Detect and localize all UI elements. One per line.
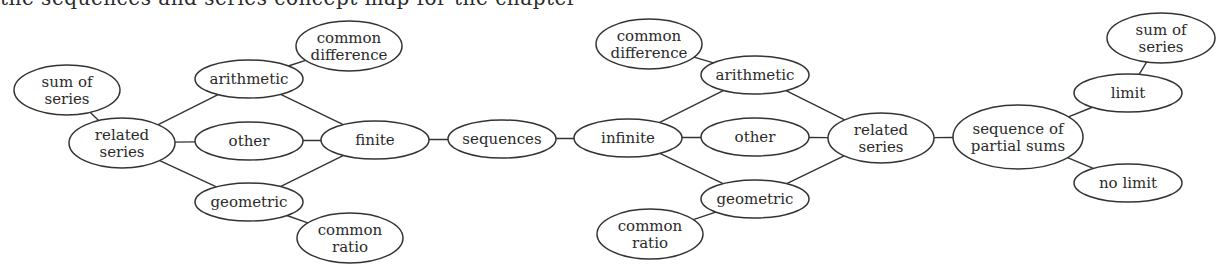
edge-related_l-arith_l xyxy=(158,95,218,125)
node-label: sum of xyxy=(42,73,94,91)
edge-related_l-geom_l xyxy=(160,161,217,187)
node-label: common xyxy=(318,221,383,239)
nodes-layer: sum ofseriesrelatedseriesarithmeticcommo… xyxy=(14,13,1215,263)
node-label: limit xyxy=(1111,84,1146,102)
edge-limit-sum_series_r xyxy=(1139,62,1146,74)
node-related-r: relatedseries xyxy=(828,113,934,163)
node-label: geometric xyxy=(716,190,793,208)
node-related-l: relatedseries xyxy=(69,118,175,168)
node-partial-sums: sequence ofpartial sums xyxy=(953,105,1083,169)
node-arith-l: arithmetic xyxy=(195,60,303,98)
edge-partial_sums-no_limit xyxy=(1068,158,1094,169)
edge-sum_series_l-related_l xyxy=(90,112,98,120)
node-sum-series-r: sum ofseries xyxy=(1107,13,1215,63)
node-label: arithmetic xyxy=(210,70,289,88)
node-label: other xyxy=(229,132,271,150)
node-label: other xyxy=(735,128,777,146)
edge-geom_r-related_r xyxy=(787,156,844,184)
node-other-r: other xyxy=(701,118,809,156)
node-finite: finite xyxy=(321,121,429,159)
node-cdiff-r: commondifference xyxy=(596,19,702,69)
node-label: sequences xyxy=(462,130,541,148)
concept-map: sum ofseriesrelatedseriesarithmeticcommo… xyxy=(0,0,1223,279)
node-label: partial sums xyxy=(971,137,1065,155)
node-sum-series-l: sum ofseries xyxy=(14,65,120,115)
node-label: series xyxy=(99,143,144,161)
node-label: series xyxy=(858,138,903,156)
node-label: ratio xyxy=(632,234,668,252)
node-other-l: other xyxy=(195,122,303,160)
edge-arith_r-cdiff_r xyxy=(694,57,713,63)
edge-geom_l-finite xyxy=(280,155,343,186)
node-label: common xyxy=(617,27,682,45)
edge-arith_r-related_r xyxy=(786,91,845,120)
node-label: difference xyxy=(311,46,388,64)
node-limit: limit xyxy=(1074,74,1182,112)
node-label: series xyxy=(1138,38,1183,56)
node-cratio-l: commonratio xyxy=(297,213,403,263)
edge-infinite-arith_r xyxy=(659,90,724,122)
edge-arith_l-finite xyxy=(281,94,344,124)
node-cdiff-l: commondifference xyxy=(296,21,402,71)
edge-partial_sums-limit xyxy=(1068,107,1092,117)
edge-infinite-geom_r xyxy=(660,153,723,183)
node-label: finite xyxy=(355,131,394,149)
node-label: infinite xyxy=(601,129,655,147)
node-label: related xyxy=(854,121,909,139)
node-label: difference xyxy=(611,44,688,62)
edge-geom_r-cratio_r xyxy=(693,212,716,220)
node-label: sequence of xyxy=(972,120,1064,138)
node-label: geometric xyxy=(210,193,287,211)
node-geom-l: geometric xyxy=(195,183,303,221)
edge-geom_l-cratio_l xyxy=(287,216,308,223)
node-label: related xyxy=(95,126,150,144)
node-label: common xyxy=(317,29,382,47)
node-no-limit: no limit xyxy=(1074,164,1182,202)
node-label: ratio xyxy=(332,238,368,256)
node-geom-r: geometric xyxy=(701,180,809,218)
node-label: no limit xyxy=(1099,174,1157,192)
node-sequences: sequences xyxy=(448,120,556,158)
node-arith-r: arithmetic xyxy=(701,56,809,94)
node-label: sum of xyxy=(1136,21,1188,39)
node-label: arithmetic xyxy=(716,66,795,84)
edge-arith_l-cdiff_l xyxy=(288,60,305,66)
node-infinite: infinite xyxy=(574,119,682,157)
node-cratio-r: commonratio xyxy=(597,209,703,259)
node-label: series xyxy=(44,90,89,108)
node-label: common xyxy=(618,217,683,235)
